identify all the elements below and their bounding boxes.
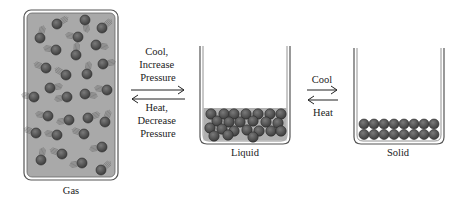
particle xyxy=(36,155,46,165)
particle xyxy=(419,119,429,129)
particle xyxy=(91,40,101,50)
particle xyxy=(399,119,409,129)
gas-container xyxy=(21,10,118,180)
particle xyxy=(79,129,89,139)
particle xyxy=(98,59,108,69)
solid-label: Solid xyxy=(387,147,410,158)
cool-increase-pressure-label: Cool, Increase Pressure xyxy=(139,46,177,83)
particle xyxy=(429,119,439,129)
particle xyxy=(45,83,55,93)
solid-particles xyxy=(359,119,439,140)
particle xyxy=(100,117,110,127)
particle xyxy=(96,165,106,175)
particle xyxy=(223,130,233,140)
particle xyxy=(389,119,399,129)
particle xyxy=(102,85,112,95)
particle xyxy=(71,50,81,60)
particle xyxy=(80,15,90,25)
particle xyxy=(52,130,62,140)
states-of-matter-diagram: Gas Cool, Increase Pressure Heat, Decrea… xyxy=(0,0,461,206)
particle xyxy=(399,130,409,140)
particle xyxy=(248,132,258,142)
particle xyxy=(369,130,379,140)
particle xyxy=(235,117,245,127)
particle xyxy=(409,130,419,140)
particle xyxy=(359,119,369,129)
particle xyxy=(261,117,271,127)
particle xyxy=(35,33,45,43)
particle xyxy=(64,115,74,125)
particle xyxy=(62,92,72,102)
liquid-label: Liquid xyxy=(231,147,260,158)
particle xyxy=(31,128,41,138)
particle xyxy=(97,23,107,33)
particle xyxy=(369,119,379,129)
particle xyxy=(51,45,61,55)
particle xyxy=(61,70,71,80)
particle xyxy=(419,130,429,140)
particle xyxy=(266,126,276,136)
particle xyxy=(29,92,39,102)
reverse-arrow-icon xyxy=(308,96,338,104)
liquid-solid-transition: Cool Heat xyxy=(307,74,338,118)
particle xyxy=(276,126,286,136)
particle xyxy=(248,116,258,126)
forward-arrow-icon xyxy=(131,86,184,94)
particle xyxy=(209,131,219,141)
particle xyxy=(379,119,389,129)
cool-label: Cool xyxy=(312,74,333,85)
particle xyxy=(80,89,90,99)
particle xyxy=(83,113,93,123)
particle xyxy=(359,130,369,140)
gas-liquid-transition: Cool, Increase Pressure Heat, Decrease P… xyxy=(131,46,185,139)
particle xyxy=(389,130,399,140)
heat-decrease-pressure-label: Heat, Decrease Pressure xyxy=(137,102,178,139)
particle xyxy=(77,158,87,168)
forward-arrow-icon xyxy=(307,86,337,94)
particle xyxy=(82,69,92,79)
particle xyxy=(429,130,439,140)
particle xyxy=(43,111,53,121)
solid-beaker xyxy=(354,48,444,144)
heat-label: Heat xyxy=(313,107,333,118)
gas-label: Gas xyxy=(63,185,79,196)
particle xyxy=(97,142,107,152)
particle xyxy=(409,119,419,129)
particle xyxy=(57,149,67,159)
particle xyxy=(52,19,62,29)
particle xyxy=(73,32,83,42)
particle xyxy=(41,63,51,73)
particle xyxy=(379,130,389,140)
liquid-beaker xyxy=(200,46,290,144)
